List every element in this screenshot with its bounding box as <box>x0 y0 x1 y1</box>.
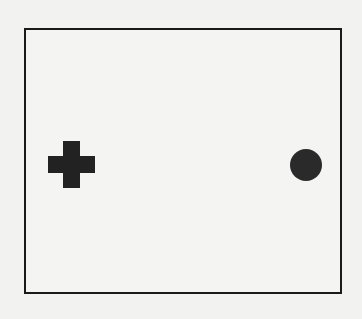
circle-icon <box>290 149 322 181</box>
cross-icon <box>48 141 95 188</box>
cross-horizontal-bar <box>48 156 95 173</box>
figure-frame <box>24 28 342 294</box>
